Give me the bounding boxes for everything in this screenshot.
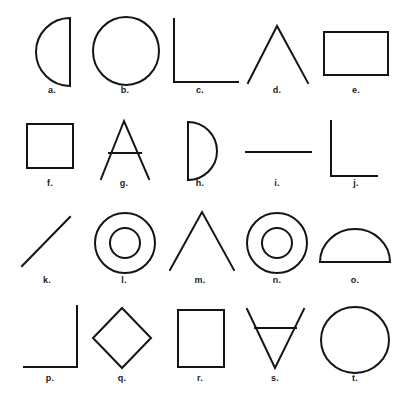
figure-m-inverted-vee[interactable]: [168, 209, 238, 273]
figure-d-inverted-vee[interactable]: [246, 24, 310, 86]
figure-label-c: c.: [180, 85, 220, 95]
figure-k-diagonal-line[interactable]: [19, 214, 75, 270]
figure-n-concentric-circles[interactable]: [245, 211, 309, 275]
figure-label-s: s.: [255, 373, 295, 383]
figure-label-g: g.: [104, 178, 144, 188]
figure-label-t: t.: [335, 373, 375, 383]
figure-label-k: k.: [27, 275, 67, 285]
figure-label-h: h.: [180, 178, 220, 188]
figure-label-r: r.: [180, 373, 220, 383]
figure-c-right-angle-corner[interactable]: [172, 18, 242, 86]
figure-label-m: m.: [180, 275, 220, 285]
figure-b-circle[interactable]: [91, 15, 161, 87]
figure-label-o: o.: [335, 275, 375, 285]
figure-s-inverted-letter-a[interactable]: [245, 307, 307, 371]
figure-p-right-angle-corner-mirrored[interactable]: [22, 304, 80, 372]
figure-a-semicircle-flat-right[interactable]: [34, 14, 74, 90]
figure-label-p: p.: [30, 373, 70, 383]
figure-o-semicircle-flat-bottom[interactable]: [318, 226, 392, 266]
figure-label-d: d.: [257, 85, 297, 95]
figure-f-square[interactable]: [25, 122, 77, 172]
figure-l-concentric-circles[interactable]: [93, 211, 157, 275]
figure-g-letter-a[interactable]: [98, 118, 152, 182]
figure-h-semicircle-flat-left[interactable]: [185, 120, 227, 182]
figure-i-horizontal-line[interactable]: [244, 148, 314, 156]
figure-j-right-angle-corner[interactable]: [328, 120, 380, 182]
figure-label-n: n.: [257, 275, 297, 285]
figure-r-rectangle-portrait[interactable]: [176, 308, 228, 370]
shape-sheet: a. b. c. d. e. f.: [0, 0, 412, 399]
figure-e-rectangle-landscape[interactable]: [322, 30, 390, 78]
figure-label-a: a.: [32, 85, 72, 95]
figure-t-circle[interactable]: [319, 305, 391, 375]
figure-label-f: f.: [30, 178, 70, 188]
figure-label-q: q.: [102, 373, 142, 383]
figure-q-diamond[interactable]: [90, 305, 154, 371]
figure-label-l: l.: [104, 275, 144, 285]
figure-label-j: j.: [336, 178, 376, 188]
figure-label-b: b.: [105, 85, 145, 95]
figure-label-i: i.: [257, 178, 297, 188]
figure-label-e: e.: [336, 85, 376, 95]
